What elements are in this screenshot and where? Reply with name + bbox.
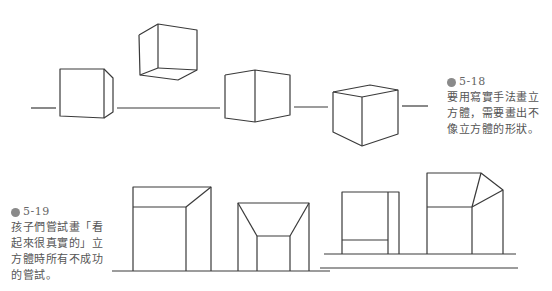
figure-number: 5-19	[23, 204, 50, 220]
cube-attempt-b	[238, 203, 309, 271]
caption-figure-5-19: 5-19 孩子們嘗試畫「看 起來很真實的」立 方體時所有不成功 的嘗試。	[11, 204, 107, 284]
ground-line	[112, 254, 518, 271]
caption-figure-5-18: 5-18 要用寫實手法畫立 方體，需要畫出不 像立方體的形狀。	[447, 74, 547, 138]
horizon-line	[31, 106, 428, 108]
figure-number: 5-18	[459, 74, 486, 90]
cube-front-view	[60, 69, 113, 118]
figure-label: 5-18	[447, 74, 547, 90]
figure-label: 5-19	[11, 204, 107, 220]
figure-badge-icon	[447, 78, 456, 87]
cube-from-above	[333, 85, 398, 146]
figure-badge-icon	[11, 208, 20, 217]
caption-text: 要用寫實手法畫立 方體，需要畫出不 像立方體的形狀。	[447, 90, 547, 138]
cube-attempt-a	[133, 187, 211, 271]
cube-attempt-c	[342, 192, 399, 254]
cube-attempt-d	[427, 173, 503, 254]
cube-floating	[139, 24, 197, 80]
caption-text: 孩子們嘗試畫「看 起來很真實的」立 方體時所有不成功 的嘗試。	[11, 220, 107, 284]
cube-eye-level	[225, 70, 290, 122]
